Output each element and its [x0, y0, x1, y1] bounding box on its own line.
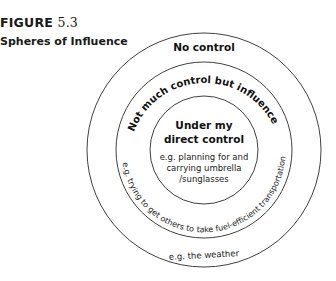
- inner-example-line1: e.g. planning for and: [160, 152, 249, 162]
- inner-heading-line1: Under my: [175, 119, 232, 131]
- middle-circle: [116, 62, 292, 238]
- outer-ring-example: e.g. the weather: [169, 248, 240, 262]
- outer-ring-heading: No control: [173, 41, 235, 53]
- inner-heading-line2: direct control: [164, 133, 244, 145]
- inner-example-line2: carrying umbrella: [166, 163, 241, 173]
- inner-example-line3: /sunglasses: [179, 174, 229, 184]
- inner-circle: [150, 96, 258, 204]
- spheres-diagram: No control e.g. the weather Not much con…: [0, 0, 336, 281]
